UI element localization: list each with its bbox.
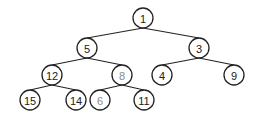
tree-node-3: 3 [189, 38, 209, 58]
tree-node-12: 12 [42, 65, 62, 85]
tree-node-8: 8 [112, 65, 132, 85]
tree-edge-12-15 [30, 85, 52, 90]
node-label: 14 [70, 95, 82, 107]
tree-node-14: 14 [66, 90, 86, 110]
node-label: 8 [119, 70, 125, 82]
node-label: 6 [97, 95, 103, 107]
node-label: 5 [84, 43, 90, 55]
node-label: 12 [46, 70, 58, 82]
tree-node-11: 11 [134, 90, 154, 110]
tree-edge-12-14 [52, 85, 76, 90]
tree-node-9: 9 [224, 65, 244, 85]
tree-edge-5-12 [52, 58, 87, 65]
tree-edge-3-4 [162, 58, 199, 65]
node-label: 9 [231, 70, 237, 82]
tree-node-5: 5 [77, 38, 97, 58]
tree-edge-5-8 [87, 58, 122, 65]
node-label: 11 [138, 95, 149, 107]
tree-nodes: 153128491514611 [20, 8, 244, 110]
tree-node-4: 4 [152, 65, 172, 85]
tree-edge-8-11 [122, 85, 144, 90]
tree-node-6: 6 [90, 90, 110, 110]
tree-edge-1-3 [143, 28, 199, 38]
node-label: 3 [196, 43, 202, 55]
tree-edge-1-5 [87, 28, 143, 38]
node-label: 15 [24, 95, 36, 107]
tree-node-15: 15 [20, 90, 40, 110]
node-label: 1 [140, 13, 146, 25]
tree-edge-3-9 [199, 58, 234, 65]
tree-edge-8-6 [100, 85, 122, 90]
tree-node-1: 1 [133, 8, 153, 28]
node-label: 4 [159, 70, 165, 82]
binary-tree-diagram: 153128491514611 [0, 0, 258, 116]
